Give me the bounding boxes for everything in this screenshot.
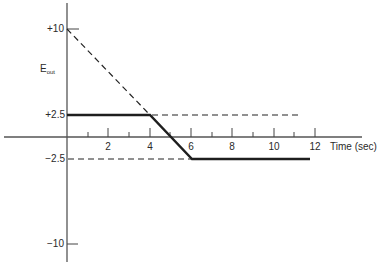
- x-label-8: 8: [222, 142, 242, 152]
- x-label-12: 12: [305, 142, 325, 152]
- y-label-plus10: +10: [34, 24, 64, 34]
- x-label-6: 6: [181, 142, 201, 152]
- y-label-minus10: −10: [34, 239, 64, 249]
- x-label-4: 4: [140, 142, 160, 152]
- y-axis-title-main: E: [40, 63, 47, 74]
- y-label-minus2.5: −2.5: [35, 154, 65, 164]
- dashed-ramp-line: [67, 29, 150, 115]
- y-axis-title: Eout: [40, 63, 55, 75]
- x-label-10: 10: [264, 142, 284, 152]
- y-label-plus2.5: +2.5: [35, 110, 65, 120]
- chart-canvas: [0, 0, 377, 266]
- x-axis-title: Time (sec): [330, 142, 377, 152]
- y-axis-title-sub: out: [47, 69, 55, 75]
- x-label-2: 2: [98, 142, 118, 152]
